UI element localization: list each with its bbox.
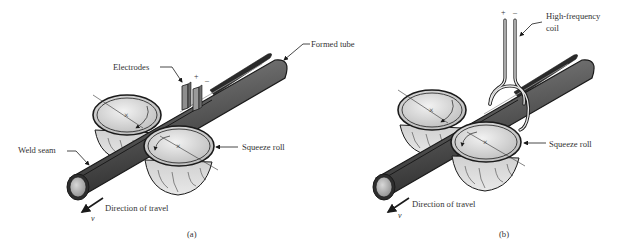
minus-sign: – (205, 77, 209, 85)
coil-label-line1: High-frequency (546, 12, 600, 21)
panel-a-electrode-welding: × × Electrodes + (0, 0, 314, 252)
minus-sign: – (513, 9, 517, 17)
svg-text:×: × (124, 111, 129, 120)
formed-tube-leader (284, 44, 310, 60)
weld-seam-label: Weld seam (18, 146, 56, 155)
direction-label: Direction of travel (412, 200, 475, 209)
velocity-symbol: v (91, 215, 95, 223)
tube-welding-illustration-a: × × (0, 0, 314, 252)
electrodes-leader (160, 67, 182, 82)
weld-seam-leader (67, 151, 89, 165)
direction-arrow (388, 198, 409, 212)
caption-b: (b) (499, 230, 509, 239)
coil-label-line2: coil (546, 24, 559, 33)
direction-arrow (82, 198, 103, 212)
panel-b-induction-welding: × × + – High-frequenc (314, 0, 628, 252)
tube-welding-illustration-b: × × (314, 0, 628, 252)
squeeze-roll-label: Squeeze roll (549, 140, 592, 149)
caption-a: (a) (187, 230, 197, 239)
velocity-symbol: v (398, 212, 402, 220)
plus-sign: + (501, 9, 506, 17)
coil-leader (520, 22, 542, 36)
svg-text:×: × (176, 142, 181, 151)
svg-text:×: × (429, 106, 434, 115)
squeeze-roll-label: Squeeze roll (242, 143, 285, 152)
electrodes-icon (182, 82, 202, 111)
svg-text:×: × (483, 138, 488, 147)
direction-label: Direction of travel (105, 204, 168, 213)
electrodes-label: Electrodes (113, 63, 149, 72)
plus-sign: + (194, 73, 199, 81)
